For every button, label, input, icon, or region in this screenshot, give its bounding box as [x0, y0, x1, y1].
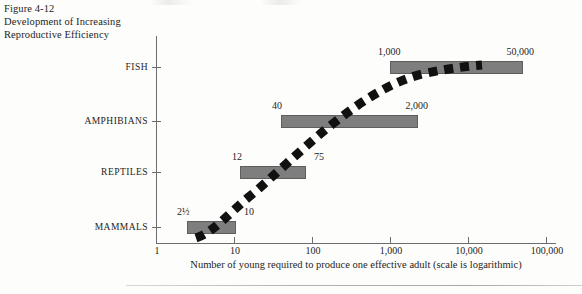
y-tick-mammals [152, 227, 161, 228]
y-tick-fish [152, 67, 161, 68]
bar-reptiles [240, 166, 306, 179]
y-label-mammals: MAMMALS [0, 222, 148, 232]
trend-curve [0, 0, 582, 294]
x-axis-line [156, 243, 556, 244]
bar-amphibians [281, 115, 418, 128]
x-label-10000: 10,000 [455, 245, 483, 256]
x-label-1: 1 [155, 245, 160, 256]
x-tick-100 [312, 237, 313, 244]
chart-plot-area: FISH AMPHIBIANS REPTILES MAMMALS 1,000 5… [0, 0, 582, 294]
bar-mammals [187, 221, 236, 234]
x-axis-title: Number of young required to produce one … [156, 259, 556, 270]
x-tick-100000 [546, 237, 547, 244]
bar-amphibians-high-label: 2,000 [406, 100, 429, 111]
bar-fish [390, 61, 523, 74]
y-label-reptiles: REPTILES [0, 167, 148, 177]
figure-page: Figure 4-12 Development of Increasing Re… [0, 0, 582, 294]
bar-mammals-low-label: 2½ [177, 206, 190, 217]
bar-reptiles-low-label: 12 [232, 151, 242, 162]
x-tick-10 [234, 237, 235, 244]
x-label-100: 100 [306, 245, 321, 256]
bar-amphibians-low-label: 40 [272, 100, 282, 111]
y-label-amphibians: AMPHIBIANS [0, 116, 148, 126]
x-label-1000: 1,000 [380, 245, 403, 256]
x-tick-1 [156, 237, 157, 244]
bar-reptiles-high-label: 75 [314, 151, 324, 162]
bar-mammals-high-label: 10 [244, 206, 254, 217]
y-tick-reptiles [152, 172, 161, 173]
x-tick-10000 [468, 237, 469, 244]
x-label-10: 10 [230, 245, 240, 256]
page-divider-rule [126, 285, 582, 286]
x-tick-1000 [390, 237, 391, 244]
y-tick-amphibians [152, 121, 161, 122]
y-label-fish: FISH [0, 62, 148, 72]
bar-fish-high-label: 50,000 [507, 46, 535, 57]
bar-fish-low-label: 1,000 [378, 46, 401, 57]
x-label-100000: 100,000 [531, 245, 564, 256]
